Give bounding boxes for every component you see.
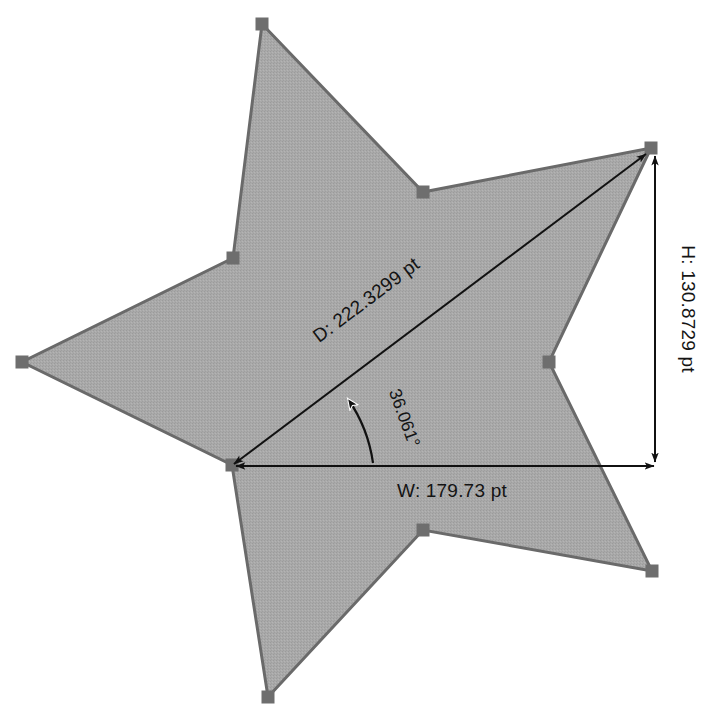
selection-handle-outer-top[interactable]	[256, 18, 269, 31]
selection-handle-inner-top-right[interactable]	[417, 186, 430, 199]
selection-handle-outer-right[interactable]	[645, 142, 658, 155]
height-measurement-group[interactable]: H: 130.8729 pt	[655, 156, 699, 462]
selection-handle-outer-bottom-right[interactable]	[646, 565, 659, 578]
selection-handle-inner-top-left[interactable]	[227, 252, 240, 265]
width-measurement-label: W: 179.73 pt	[397, 480, 507, 501]
drawing-canvas[interactable]: D: 222.3299 pt W: 179.73 pt H: 130.8729 …	[0, 0, 705, 727]
selection-handle-inner-bottom[interactable]	[417, 524, 430, 537]
selection-handle-outer-left[interactable]	[16, 356, 29, 369]
shape-canvas-svg[interactable]: D: 222.3299 pt W: 179.73 pt H: 130.8729 …	[0, 0, 705, 727]
selection-handle-inner-right[interactable]	[543, 356, 556, 369]
height-measurement-label: H: 130.8729 pt	[678, 245, 699, 373]
star-shape[interactable]	[22, 24, 652, 697]
star-shape-group[interactable]	[22, 24, 652, 697]
selection-handle-outer-bottom[interactable]	[262, 691, 275, 704]
